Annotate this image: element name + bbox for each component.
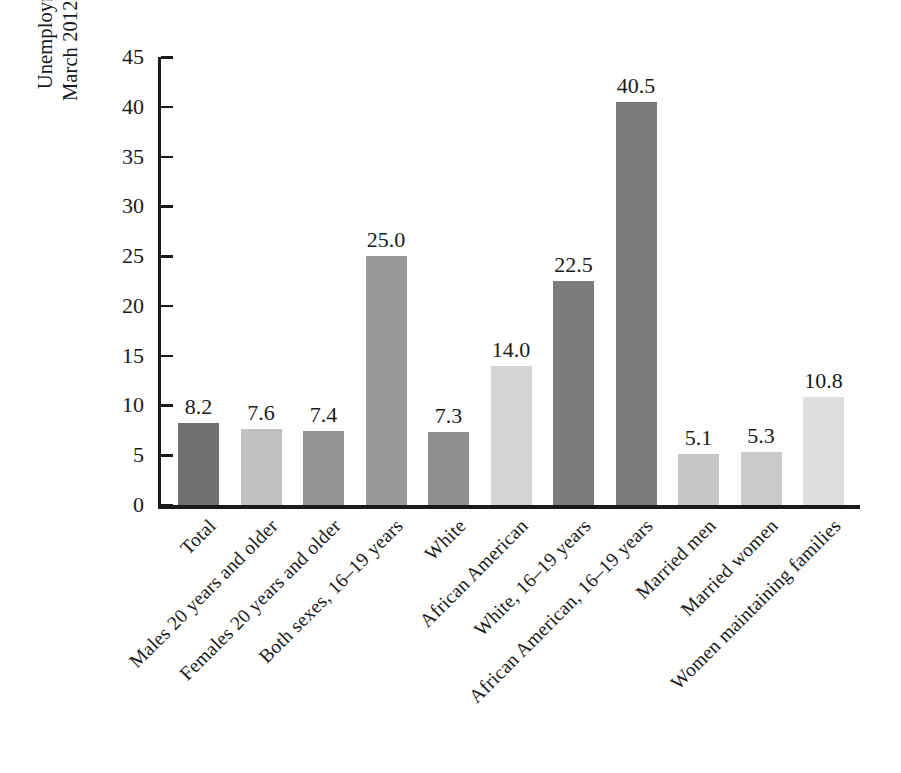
bar[interactable]: [178, 423, 219, 505]
bar-group: 5.1: [678, 57, 719, 505]
bar[interactable]: [428, 432, 469, 505]
bar-value-label: 7.6: [247, 400, 275, 426]
bar-chart-figure: Unemployment rates, March 2012 (in perce…: [0, 0, 901, 773]
bar[interactable]: [803, 397, 844, 505]
bar-value-label: 14.0: [492, 337, 531, 363]
bar-value-label: 10.8: [804, 368, 843, 394]
bar-value-label: 40.5: [617, 73, 656, 99]
bar[interactable]: [616, 102, 657, 505]
bar-group: 7.4: [303, 57, 344, 505]
bar[interactable]: [678, 454, 719, 505]
y-tick-mark: [161, 205, 173, 208]
bar-group: 14.0: [491, 57, 532, 505]
bar[interactable]: [741, 452, 782, 505]
bar-group: 5.3: [741, 57, 782, 505]
y-axis-title-line-1: Unemployment rates,: [33, 0, 58, 89]
x-axis-label: Total: [176, 515, 220, 559]
y-tick-label: 15: [122, 343, 144, 369]
plot-area: 454035302520151050 8.27.67.425.07.314.02…: [158, 57, 860, 505]
bar-group: 10.8: [803, 57, 844, 505]
y-tick-label: 10: [122, 392, 144, 418]
bar-group: 7.6: [241, 57, 282, 505]
y-tick-mark: [161, 504, 173, 507]
bar-group: 22.5: [553, 57, 594, 505]
y-tick-label: 20: [122, 293, 144, 319]
bar-group: 7.3: [428, 57, 469, 505]
bar-value-label: 5.1: [685, 425, 713, 451]
bar[interactable]: [553, 281, 594, 505]
y-tick-mark: [161, 156, 173, 159]
y-tick-label: 5: [133, 442, 144, 468]
y-tick-label: 0: [133, 492, 144, 518]
bar[interactable]: [303, 431, 344, 505]
y-tick-mark: [161, 106, 173, 109]
bar-value-label: 5.3: [747, 423, 775, 449]
y-tick-mark: [161, 404, 173, 407]
bar-group: 40.5: [616, 57, 657, 505]
bar-value-label: 22.5: [554, 252, 593, 278]
bar[interactable]: [491, 366, 532, 505]
y-tick-label: 40: [122, 94, 144, 120]
y-tick-label: 35: [122, 144, 144, 170]
y-axis-line: [158, 57, 161, 505]
y-axis-title-line-2: March 2012 (in percent): [58, 0, 83, 101]
bar-value-label: 7.4: [310, 402, 338, 428]
bar-group: 8.2: [178, 57, 219, 505]
bar[interactable]: [366, 256, 407, 505]
y-tick-mark: [161, 355, 173, 358]
bar[interactable]: [241, 429, 282, 505]
y-tick-mark: [161, 454, 173, 457]
y-tick-label: 25: [122, 243, 144, 269]
x-axis-label: African American: [416, 515, 533, 632]
x-axis-label: White: [420, 515, 470, 565]
bar-value-label: 25.0: [367, 227, 406, 253]
y-axis-title: Unemployment rates, March 2012 (in perce…: [18, 0, 98, 200]
bar-value-label: 8.2: [185, 394, 213, 420]
bar-value-label: 7.3: [435, 403, 463, 429]
y-tick-mark: [161, 56, 173, 59]
y-tick-label: 30: [122, 193, 144, 219]
bar-group: 25.0: [366, 57, 407, 505]
y-tick-mark: [161, 255, 173, 258]
y-tick-mark: [161, 305, 173, 308]
x-axis-label: White, 16–19 years: [469, 515, 595, 641]
y-tick-label: 45: [122, 44, 144, 70]
x-axis-line: [158, 505, 860, 509]
